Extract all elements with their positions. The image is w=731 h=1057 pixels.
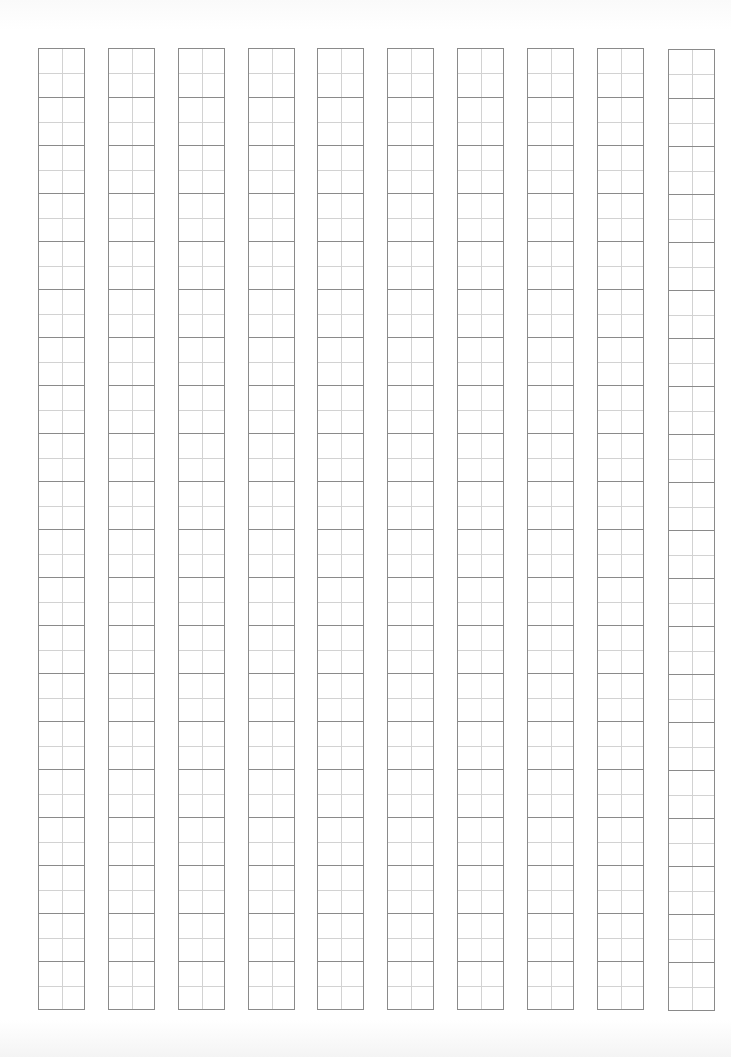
horizontal-guide-line xyxy=(179,506,224,507)
horizontal-guide-line xyxy=(669,555,714,556)
grid-cell xyxy=(528,241,573,289)
grid-cell xyxy=(388,721,433,769)
grid-cell xyxy=(458,241,503,289)
horizontal-guide-line xyxy=(109,602,154,603)
grid-cell xyxy=(388,241,433,289)
grid-cell xyxy=(249,433,294,481)
grid-cell xyxy=(388,529,433,577)
horizontal-guide-line xyxy=(318,698,363,699)
grid-cell xyxy=(318,865,363,913)
horizontal-guide-line xyxy=(388,746,433,747)
grid-cell xyxy=(109,529,154,577)
horizontal-guide-line xyxy=(458,650,503,651)
grid-cell xyxy=(528,913,573,961)
horizontal-guide-line xyxy=(249,218,294,219)
grid-cell xyxy=(598,673,643,721)
horizontal-guide-line xyxy=(39,554,84,555)
grid-cell xyxy=(458,193,503,241)
horizontal-guide-line xyxy=(528,650,573,651)
horizontal-guide-line xyxy=(528,602,573,603)
grid-cell xyxy=(249,625,294,673)
horizontal-guide-line xyxy=(39,458,84,459)
horizontal-guide-line xyxy=(249,458,294,459)
grid-cell xyxy=(598,289,643,337)
grid-cell xyxy=(39,385,84,433)
horizontal-guide-line xyxy=(388,314,433,315)
horizontal-guide-line xyxy=(179,698,224,699)
horizontal-guide-line xyxy=(598,218,643,219)
horizontal-guide-line xyxy=(318,266,363,267)
horizontal-guide-line xyxy=(109,650,154,651)
grid-cell xyxy=(458,337,503,385)
horizontal-guide-line xyxy=(458,458,503,459)
horizontal-guide-line xyxy=(179,218,224,219)
grid-cell xyxy=(388,289,433,337)
horizontal-guide-line xyxy=(179,170,224,171)
grid-cell xyxy=(669,722,714,770)
horizontal-guide-line xyxy=(39,73,84,74)
horizontal-guide-line xyxy=(598,122,643,123)
horizontal-guide-line xyxy=(318,458,363,459)
horizontal-guide-line xyxy=(179,842,224,843)
horizontal-guide-line xyxy=(249,266,294,267)
horizontal-guide-line xyxy=(109,458,154,459)
horizontal-guide-line xyxy=(388,554,433,555)
grid-cell xyxy=(179,913,224,961)
horizontal-guide-line xyxy=(109,314,154,315)
horizontal-guide-line xyxy=(388,890,433,891)
horizontal-guide-line xyxy=(318,842,363,843)
grid-cell xyxy=(528,961,573,1009)
grid-cell xyxy=(388,577,433,625)
grid-cell xyxy=(179,865,224,913)
horizontal-guide-line xyxy=(249,410,294,411)
grid-cell xyxy=(458,913,503,961)
horizontal-guide-line xyxy=(318,890,363,891)
grid-cell xyxy=(39,241,84,289)
grid-cell xyxy=(249,337,294,385)
grid-cell xyxy=(669,626,714,674)
grid-cell xyxy=(318,817,363,865)
grid-cell xyxy=(669,578,714,626)
grid-cell xyxy=(528,337,573,385)
horizontal-guide-line xyxy=(669,74,714,75)
grid-cell xyxy=(528,817,573,865)
grid-cell xyxy=(669,914,714,962)
horizontal-guide-line xyxy=(388,73,433,74)
grid-cell xyxy=(179,529,224,577)
horizontal-guide-line xyxy=(669,987,714,988)
grid-cell xyxy=(528,385,573,433)
grid-cell xyxy=(249,481,294,529)
horizontal-guide-line xyxy=(458,170,503,171)
horizontal-guide-line xyxy=(669,267,714,268)
horizontal-guide-line xyxy=(39,170,84,171)
horizontal-guide-line xyxy=(109,986,154,987)
horizontal-guide-line xyxy=(458,218,503,219)
grid-cell xyxy=(179,337,224,385)
grid-cell xyxy=(388,145,433,193)
horizontal-guide-line xyxy=(388,698,433,699)
horizontal-guide-line xyxy=(458,986,503,987)
grid-cell xyxy=(669,818,714,866)
grid-cell xyxy=(669,290,714,338)
grid-cell xyxy=(109,721,154,769)
horizontal-guide-line xyxy=(318,650,363,651)
grid-cell xyxy=(598,913,643,961)
grid-cell xyxy=(179,817,224,865)
grid-cell xyxy=(179,97,224,145)
grid-cell xyxy=(318,97,363,145)
horizontal-guide-line xyxy=(458,506,503,507)
grid-cell xyxy=(179,961,224,1009)
grid-cell xyxy=(39,625,84,673)
grid-cell xyxy=(598,481,643,529)
grid-cell xyxy=(669,146,714,194)
grid-cell xyxy=(669,386,714,434)
horizontal-guide-line xyxy=(388,410,433,411)
grid-cell xyxy=(388,97,433,145)
grid-cell xyxy=(528,529,573,577)
grid-cell xyxy=(249,577,294,625)
horizontal-guide-line xyxy=(318,938,363,939)
horizontal-guide-line xyxy=(528,746,573,747)
horizontal-guide-line xyxy=(249,698,294,699)
horizontal-guide-line xyxy=(318,314,363,315)
grid-cell xyxy=(318,961,363,1009)
